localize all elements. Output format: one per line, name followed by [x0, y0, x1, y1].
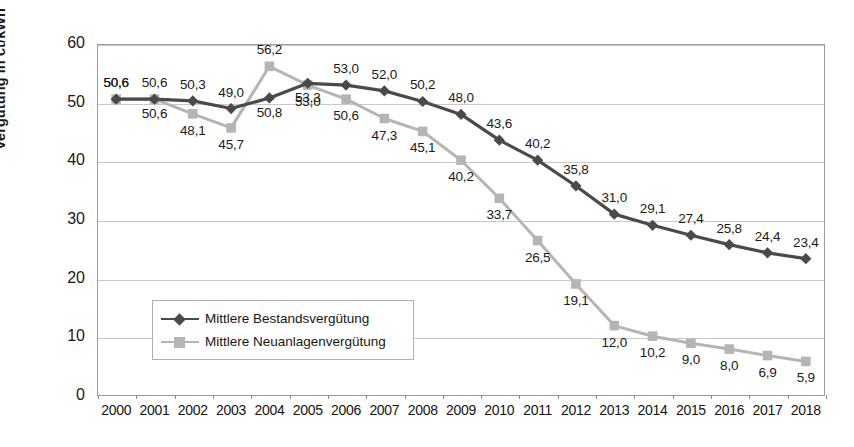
data-point-label: 50,6	[92, 75, 140, 90]
x-tick-mark	[443, 395, 444, 399]
x-tick-mark	[405, 395, 406, 399]
x-tick-label: 2010	[479, 402, 519, 418]
gridline	[98, 45, 824, 46]
legend-swatch-square-icon	[161, 336, 199, 348]
x-tick-label: 2018	[786, 402, 826, 418]
x-tick-label: 2006	[326, 402, 366, 418]
data-point-label: 5,9	[782, 370, 830, 385]
y-tick-label: 20	[45, 269, 85, 287]
x-tick-mark	[596, 395, 597, 399]
data-point-label: 40,2	[514, 136, 562, 151]
data-point-label: 40,2	[437, 169, 485, 184]
y-axis-title: Vergütung in ct/kWh	[0, 0, 8, 150]
x-tick-mark	[558, 395, 559, 399]
x-tick-label: 2007	[364, 402, 404, 418]
data-point-label: 53,0	[284, 94, 332, 109]
x-tick-label: 2001	[134, 402, 174, 418]
x-tick-mark	[826, 395, 827, 399]
x-tick-label: 2009	[441, 402, 481, 418]
x-tick-label: 2000	[96, 402, 136, 418]
x-tick-mark	[519, 395, 520, 399]
x-tick-mark	[175, 395, 176, 399]
x-tick-label: 2011	[518, 402, 558, 418]
x-tick-mark	[481, 395, 482, 399]
x-tick-label: 2017	[748, 402, 788, 418]
data-point-label: 49,0	[207, 85, 255, 100]
x-tick-label: 2012	[556, 402, 596, 418]
data-point-label: 48,1	[169, 123, 217, 138]
x-tick-mark	[366, 395, 367, 399]
x-tick-mark	[251, 395, 252, 399]
data-point-label: 43,6	[475, 116, 523, 131]
x-tick-label: 2003	[211, 402, 251, 418]
y-tick-label: 50	[45, 93, 85, 111]
x-tick-label: 2008	[403, 402, 443, 418]
x-tick-mark	[788, 395, 789, 399]
y-tick-label: 0	[45, 386, 85, 404]
gridline	[98, 162, 824, 163]
data-point-label: 50,6	[130, 106, 178, 121]
data-point-label: 56,2	[245, 42, 293, 57]
chart-legend: Mittlere Bestandsvergütung Mittlere Neua…	[152, 300, 414, 360]
legend-item-bestandsverguetung[interactable]: Mittlere Bestandsvergütung	[161, 307, 405, 330]
x-tick-mark	[98, 395, 99, 399]
data-point-label: 35,8	[552, 162, 600, 177]
x-tick-label: 2005	[288, 402, 328, 418]
y-tick-label: 30	[45, 210, 85, 228]
legend-swatch-diamond-icon	[161, 313, 199, 325]
data-point-label: 48,0	[437, 90, 485, 105]
data-point-label: 33,7	[475, 207, 523, 222]
gridline	[98, 280, 824, 281]
y-tick-label: 60	[45, 34, 85, 52]
x-tick-mark	[290, 395, 291, 399]
x-tick-label: 2014	[633, 402, 673, 418]
chart-container: Vergütung in ct/kWh 6050403020100 50,650…	[0, 0, 854, 447]
data-point-label: 23,4	[782, 235, 830, 250]
x-tick-mark	[328, 395, 329, 399]
x-tick-label: 2015	[671, 402, 711, 418]
x-tick-label: 2002	[173, 402, 213, 418]
x-tick-mark	[213, 395, 214, 399]
x-tick-mark	[711, 395, 712, 399]
x-tick-mark	[634, 395, 635, 399]
legend-label-bestandsverguetung: Mittlere Bestandsvergütung	[205, 311, 369, 326]
x-tick-mark	[749, 395, 750, 399]
y-tick-label: 40	[45, 151, 85, 169]
x-tick-mark	[673, 395, 674, 399]
x-tick-label: 2004	[249, 402, 289, 418]
data-point-label: 45,1	[399, 140, 447, 155]
legend-label-neuanlagenverguetung: Mittlere Neuanlagenvergütung	[205, 334, 386, 349]
data-point-label: 26,5	[514, 250, 562, 265]
x-tick-mark	[136, 395, 137, 399]
legend-item-neuanlagenverguetung[interactable]: Mittlere Neuanlagenvergütung	[161, 330, 405, 353]
data-point-label: 50,6	[322, 108, 370, 123]
x-tick-label: 2016	[709, 402, 749, 418]
y-tick-label: 10	[45, 327, 85, 345]
data-point-label: 19,1	[552, 293, 600, 308]
data-point-label: 45,7	[207, 137, 255, 152]
x-tick-label: 2013	[594, 402, 634, 418]
